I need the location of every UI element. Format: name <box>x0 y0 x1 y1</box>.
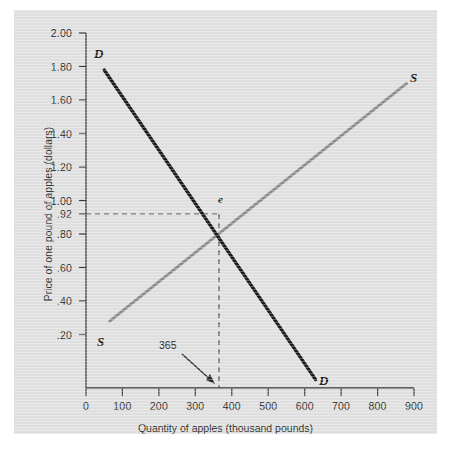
y-tick-label: 2.00 <box>22 27 72 39</box>
demand-label-bottom: D <box>319 373 328 389</box>
x-tick-label: 300 <box>175 400 215 412</box>
x-tick-label: 400 <box>212 400 252 412</box>
supply-demand-chart: 2.00 1.80 1.60 1.40 1.20 1.00 .92 .80 .6… <box>14 10 437 434</box>
chart-panel: 2.00 1.80 1.60 1.40 1.20 1.00 .92 .80 .6… <box>14 10 437 434</box>
x-tick-label: 900 <box>394 400 434 412</box>
x-tick-label: 0 <box>66 400 106 412</box>
x-tick-label: 100 <box>102 400 142 412</box>
y-axis-title: Price of one pound of apples (dollars) <box>42 94 54 334</box>
supply-label-bottom: S <box>97 334 104 350</box>
supply-label-top: S <box>410 70 417 86</box>
demand-curve <box>104 70 315 380</box>
demand-label-top: D <box>94 46 103 62</box>
quantity-callout-arrow <box>182 354 215 384</box>
x-axis-ticks <box>86 388 414 396</box>
x-axis-title: Quantity of apples (thousand pounds) <box>14 422 437 434</box>
x-tick-label: 600 <box>285 400 325 412</box>
chart-svg <box>14 10 437 434</box>
x-tick-label: 800 <box>358 400 398 412</box>
guide-lines <box>86 214 219 388</box>
x-tick-label: 500 <box>248 400 288 412</box>
y-axis-ticks <box>79 33 86 335</box>
x-tick-label: 200 <box>139 400 179 412</box>
supply-curve <box>110 83 407 321</box>
figure-stage: 2.00 1.80 1.60 1.40 1.20 1.00 .92 .80 .6… <box>0 0 449 460</box>
y-tick-label: 1.80 <box>22 61 72 73</box>
x-tick-label: 700 <box>321 400 361 412</box>
quantity-callout-label: 365 <box>159 339 177 351</box>
equilibrium-label: e <box>218 193 223 205</box>
